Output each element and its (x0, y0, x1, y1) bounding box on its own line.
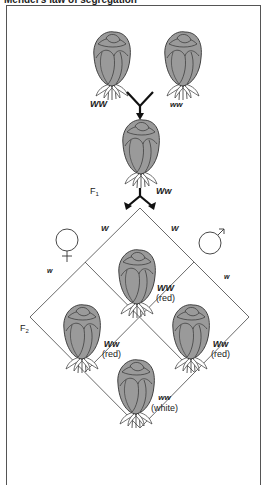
cell-genotype: ww (151, 393, 178, 403)
female-allele-w-recessive: w (47, 266, 52, 276)
male-allele-w-recessive: w (224, 272, 229, 282)
cell-genotype: WW (156, 283, 175, 293)
arrowhead-icon (136, 113, 144, 120)
punnett-cell-bottom: ww (white) (151, 393, 178, 413)
female-symbol-icon (56, 229, 78, 262)
punnett-cell-top: WW (red) (156, 283, 175, 303)
f2-label: F2 (20, 323, 29, 336)
cell-phenotype: (red) (211, 349, 230, 359)
parent-red-genotype: WW (90, 99, 107, 109)
female-allele-w-dominant: W (101, 224, 109, 234)
cell-phenotype: (white) (151, 403, 178, 413)
f1-label-sub: 1 (96, 191, 99, 197)
cross-arrow-icon (127, 92, 153, 116)
f1-red-rose (123, 120, 160, 188)
punnett-cell-left: Ww (red) (102, 339, 121, 359)
male-symbol-icon (199, 229, 224, 254)
f1-label: F1 (90, 186, 99, 199)
f2-label-sub: 2 (26, 328, 29, 334)
punnett-cell-right: Ww (red) (211, 339, 230, 359)
cell-genotype: Ww (102, 339, 121, 349)
cell-phenotype: (red) (156, 293, 175, 303)
cell-phenotype: (red) (102, 349, 121, 359)
parent-white-rose (165, 32, 202, 100)
male-allele-w-dominant: W (171, 224, 179, 234)
cell-ww-white-rose (118, 360, 155, 428)
cell-ww-red-rose (119, 250, 156, 318)
cell-ww-left-red-rose (64, 305, 101, 373)
split-arrows-icon (128, 188, 152, 206)
parent-white-genotype: ww (170, 100, 182, 110)
cell-genotype: Ww (211, 339, 230, 349)
f1-genotype: Ww (156, 186, 172, 196)
parent-red-rose (94, 32, 131, 100)
